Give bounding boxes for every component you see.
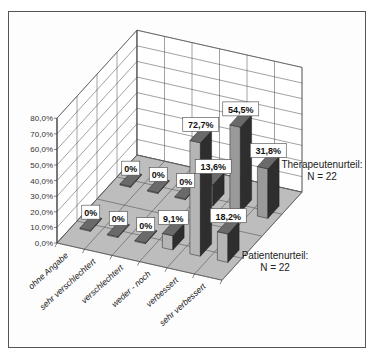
- y-tick-label: 70,0%: [30, 130, 53, 139]
- value-label: 18,2%: [210, 209, 246, 223]
- value-label: 31,8%: [250, 143, 286, 157]
- value-label: 0%: [122, 161, 140, 175]
- y-tick-label: 60,0%: [30, 145, 53, 154]
- bar: [230, 113, 252, 213]
- value-label: 0%: [177, 174, 195, 188]
- series-label-patienten: Patientenurteil: N = 22: [225, 250, 325, 274]
- svg-text:13,6%: 13,6%: [200, 162, 226, 172]
- value-label: 72,7%: [183, 117, 219, 131]
- value-label: 9,1%: [158, 211, 188, 225]
- series-label-therapeuten: Therapeutenurteil: N = 22: [272, 159, 372, 183]
- value-label: 0%: [82, 205, 100, 219]
- svg-text:0%: 0%: [152, 170, 165, 180]
- svg-text:54,5%: 54,5%: [228, 105, 254, 115]
- svg-text:9,1%: 9,1%: [163, 214, 184, 224]
- value-label: 0%: [137, 218, 155, 232]
- series-n: N = 22: [225, 262, 325, 274]
- y-tick-label: 40,0%: [30, 177, 53, 186]
- svg-text:0%: 0%: [84, 208, 97, 218]
- value-label: 54,5%: [223, 102, 259, 116]
- y-tick-label: 20,0%: [30, 208, 53, 217]
- series-n: N = 22: [272, 171, 372, 183]
- y-tick-label: 10,0%: [30, 223, 53, 232]
- svg-text:0%: 0%: [124, 164, 137, 174]
- y-tick-label: 30,0%: [30, 192, 53, 201]
- svg-text:0%: 0%: [139, 221, 152, 231]
- series-name: Patientenurteil:: [225, 250, 325, 262]
- svg-text:18,2%: 18,2%: [215, 212, 241, 222]
- y-tick-label: 0,0%: [35, 239, 53, 248]
- y-tick-label: 80,0%: [30, 114, 53, 123]
- svg-text:0%: 0%: [112, 214, 125, 224]
- value-label: 0%: [109, 211, 127, 225]
- y-tick-label: 50,0%: [30, 161, 53, 170]
- svg-text:31,8%: 31,8%: [255, 146, 281, 156]
- bar: [190, 128, 212, 256]
- value-label: 13,6%: [195, 159, 231, 173]
- svg-text:0%: 0%: [179, 177, 192, 187]
- value-label: 0%: [149, 167, 167, 181]
- svg-text:72,7%: 72,7%: [188, 120, 214, 130]
- series-name: Therapeutenurteil:: [272, 159, 372, 171]
